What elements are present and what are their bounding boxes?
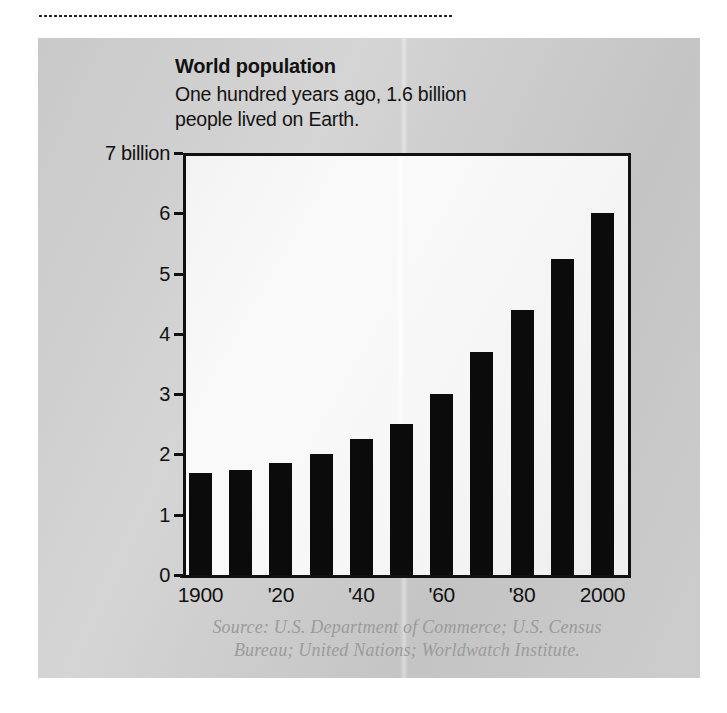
source-line-1: Source: U.S. Department of Commerce; U.S… (76, 616, 727, 639)
chart-subtitle: One hundred years ago, 1.6 billion peopl… (175, 82, 505, 132)
figure-panel: World population One hundred years ago, … (38, 38, 700, 678)
plot-area: 01234567 billion1900'20'40'60'802000 (183, 153, 631, 578)
source-note: Source: U.S. Department of Commerce; U.S… (76, 616, 727, 662)
axis-frame-top (183, 153, 631, 156)
x-axis-label-1900: 1900 (178, 583, 224, 607)
x-axis-label-1940: '40 (348, 583, 374, 607)
bar-1990 (551, 259, 574, 576)
y-axis-label: 4 (159, 322, 170, 345)
y-axis-label: 6 (159, 202, 170, 225)
y-axis-label: 5 (159, 262, 170, 285)
top-dotted-rule (38, 13, 452, 17)
axis-frame-right (628, 153, 631, 578)
y-axis-tick (174, 514, 183, 517)
chart-title: World population (175, 55, 336, 78)
bar-1950 (390, 424, 413, 575)
y-axis-tick (174, 273, 183, 276)
y-axis-tick (174, 453, 183, 456)
y-axis-label: 7 billion (105, 142, 170, 165)
y-axis-line (183, 153, 186, 578)
bar-1960 (430, 394, 453, 575)
bar-1900 (189, 473, 212, 575)
y-axis-label: 1 (159, 503, 170, 526)
x-axis-label-1920: '20 (268, 583, 294, 607)
y-axis-tick (174, 393, 183, 396)
bar-1930 (310, 454, 333, 575)
y-axis-label: 0 (159, 564, 170, 587)
x-axis-label-2000: 2000 (580, 583, 626, 607)
x-axis-label-1960: '60 (428, 583, 454, 607)
x-axis-line (180, 575, 631, 578)
y-axis-tick (174, 152, 183, 155)
y-axis-tick (174, 212, 183, 215)
bar-1910 (229, 470, 252, 576)
bar-1940 (350, 439, 373, 575)
bar-2000 (591, 213, 614, 575)
y-axis-label: 2 (159, 443, 170, 466)
y-axis-tick (174, 574, 183, 577)
y-axis-tick (174, 333, 183, 336)
source-line-2: Bureau; United Nations; Worldwatch Insti… (76, 639, 727, 662)
bar-1970 (470, 352, 493, 575)
bar-1920 (269, 463, 292, 575)
x-axis-label-1980: '80 (509, 583, 535, 607)
y-axis-label: 3 (159, 383, 170, 406)
bar-1980 (511, 310, 534, 575)
